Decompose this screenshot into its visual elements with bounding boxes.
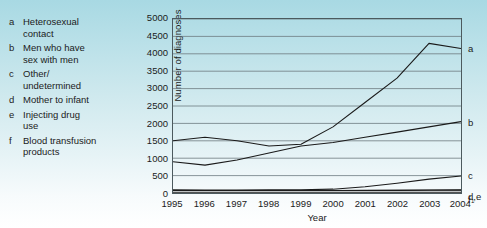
chart-area: Number of diagnoses 05001000150020002500… — [128, 12, 483, 222]
plot-frame — [172, 18, 462, 194]
y-tick-label: 1500 — [128, 136, 168, 146]
y-tick-label: 2000 — [128, 119, 168, 129]
legend-key-b: b — [9, 42, 23, 54]
series-end-label-f: f — [468, 195, 471, 204]
legend-label-a: Heterosexual contact — [23, 16, 79, 39]
y-tick-label: 3000 — [128, 83, 168, 93]
x-tick-label: 2000 — [323, 198, 344, 209]
y-tick-label: 4000 — [128, 48, 168, 58]
legend-key-d: d — [9, 94, 23, 106]
x-axis-label: Year — [172, 212, 462, 223]
chart-figure: a Heterosexual contact b Men who have se… — [0, 0, 487, 228]
series-end-label-c: c — [468, 171, 473, 180]
y-tick-label: 2500 — [128, 101, 168, 111]
x-tick-label: 1998 — [258, 198, 279, 209]
legend-item-e: e Injecting drug use — [9, 109, 137, 132]
y-tick-label: 3500 — [128, 66, 168, 76]
x-tick-label: 2001 — [355, 198, 376, 209]
series-end-label-b: b — [468, 118, 473, 127]
legend-label-c: Other/ undetermined — [23, 68, 81, 91]
x-tick-label: 1997 — [226, 198, 247, 209]
legend-item-c: c Other/ undetermined — [9, 68, 137, 91]
legend-item-d: d Mother to infant — [9, 94, 137, 106]
legend-key-c: c — [9, 68, 23, 80]
series-end-label-a: a — [468, 44, 473, 53]
plot-wrapper: 1995199619971998199920002001200220032004… — [172, 12, 472, 222]
legend-item-f: f Blood transfusion products — [9, 135, 137, 158]
x-tick-label: 2003 — [419, 198, 440, 209]
y-axis-ticks: 0500100015002000250030003500400045005000 — [126, 12, 168, 222]
legend-label-e: Injecting drug use — [23, 109, 80, 132]
legend-item-a: a Heterosexual contact — [9, 16, 137, 39]
y-tick-label: 500 — [128, 171, 168, 181]
series-line-a — [173, 43, 461, 146]
y-tick-label: 5000 — [128, 13, 168, 23]
plot-svg — [173, 19, 461, 193]
legend-label-f: Blood transfusion products — [23, 135, 96, 158]
legend-key-e: e — [9, 109, 23, 121]
legend: a Heterosexual contact b Men who have se… — [9, 16, 137, 161]
x-tick-label: 1999 — [290, 198, 311, 209]
x-tick-label: 2002 — [387, 198, 408, 209]
legend-key-a: a — [9, 16, 23, 28]
y-tick-label: 1000 — [128, 154, 168, 164]
legend-label-b: Men who have sex with men — [23, 42, 85, 65]
legend-key-f: f — [9, 135, 23, 147]
legend-label-d: Mother to infant — [23, 94, 89, 106]
series-line-c — [173, 176, 461, 190]
legend-item-b: b Men who have sex with men — [9, 42, 137, 65]
x-tick-label: 1995 — [161, 198, 182, 209]
y-tick-label: 4500 — [128, 31, 168, 41]
series-line-b — [173, 122, 461, 166]
x-tick-label: 1996 — [194, 198, 215, 209]
